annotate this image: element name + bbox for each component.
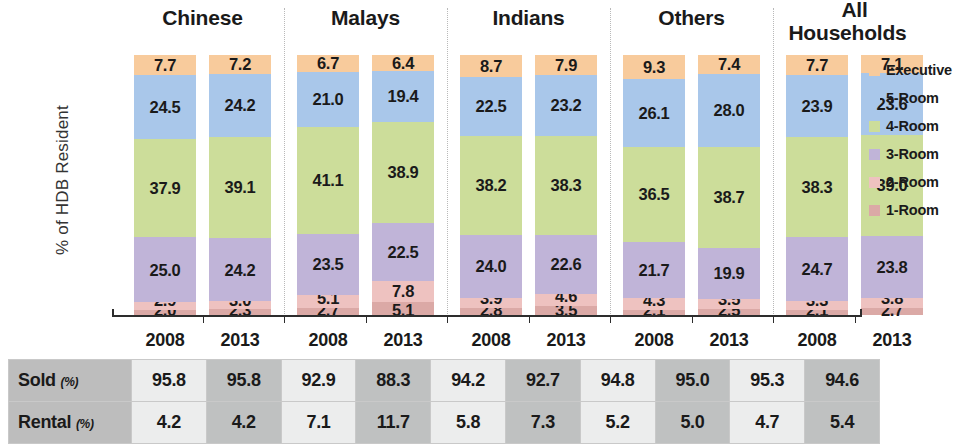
bar-all-households-2008: 2.13.324.738.323.97.7 (786, 55, 848, 315)
segment-value-label: 8.7 (480, 58, 502, 75)
segment-value-label: 38.3 (802, 179, 833, 196)
segment-value-label: 24.2 (225, 262, 256, 279)
bar-segment-room2: 2.9 (134, 302, 196, 310)
bar-segment-executive: 6.7 (297, 55, 359, 72)
group-separator (284, 8, 285, 316)
bar-segment-room4: 41.1 (297, 127, 359, 234)
bar-segment-room4: 38.2 (460, 136, 522, 235)
bar-segment-executive: 7.2 (209, 55, 271, 74)
segment-value-label: 22.6 (551, 256, 582, 273)
segment-value-label: 23.8 (877, 259, 908, 276)
bar-segment-room2: 3.0 (209, 301, 271, 309)
bar-segment-room3: 24.7 (786, 237, 848, 301)
segment-value-label: 24.0 (476, 258, 507, 275)
table-cell: 95.8 (132, 360, 207, 402)
legend-item-5-room[interactable]: 5-Room (869, 84, 968, 112)
axis-tick (855, 316, 856, 323)
x-tick-label-3: 2013 (372, 330, 434, 351)
bar-segment-room3: 24.0 (460, 235, 522, 297)
bar-segment-room1: 2.7 (297, 308, 359, 315)
x-axis-line (112, 315, 862, 317)
bar-segment-room5: 23.9 (786, 75, 848, 137)
group-separator (447, 8, 448, 316)
x-tick-label-4: 2008 (460, 330, 522, 351)
bar-segment-room1: 2.7 (861, 308, 923, 315)
table-cell: 4.2 (132, 402, 207, 444)
table-row-header: Rental (%) (9, 402, 132, 444)
legend-item-4-room[interactable]: 4-Room (869, 112, 968, 140)
table-cell: 5.0 (655, 402, 730, 444)
legend-item-executive[interactable]: Executive (869, 56, 968, 84)
segment-value-label: 6.4 (392, 55, 414, 72)
bar-segment-room2: 5.1 (297, 295, 359, 308)
bar-segment-room5: 28.0 (698, 74, 760, 147)
legend-label: 1-Room (886, 202, 939, 218)
table-row-header: Sold (%) (9, 360, 132, 402)
table-cell: 92.9 (281, 360, 356, 402)
table-row-label: Sold (18, 370, 61, 390)
table-row: Sold (%)95.895.892.988.394.292.794.895.0… (9, 360, 880, 402)
bar-segment-executive: 7.7 (134, 55, 196, 75)
bar-segment-room2: 3.8 (861, 298, 923, 308)
segment-value-label: 6.7 (317, 55, 339, 72)
segment-value-label: 19.9 (714, 265, 745, 282)
legend-swatch-icon (869, 121, 880, 132)
bar-segment-room2: 3.9 (460, 298, 522, 308)
group-title: Others (623, 6, 760, 29)
legend-item-1-room[interactable]: 1-Room (869, 196, 968, 224)
table-cell: 7.3 (505, 402, 580, 444)
group-separator (610, 8, 611, 316)
segment-value-label: 23.9 (802, 98, 833, 115)
y-axis-title: % of HDB Resident (53, 65, 73, 295)
x-tick-label-5: 2013 (535, 330, 597, 351)
table-cell: 95.3 (730, 360, 805, 402)
plot-area: ChineseMalaysIndiansOthersAllHouseholds … (112, 0, 862, 322)
bar-segment-room2: 3.3 (786, 301, 848, 310)
group-title: Indians (460, 6, 597, 29)
segment-value-label: 39.1 (225, 179, 256, 196)
table-row-label: Rental (18, 412, 76, 432)
segment-value-label: 22.5 (476, 98, 507, 115)
segment-value-label: 21.7 (639, 262, 670, 279)
legend-swatch-icon (869, 93, 880, 104)
x-tick-label-7: 2013 (698, 330, 760, 351)
bar-segment-room1: 2.8 (460, 308, 522, 315)
group-title: Malays (297, 6, 434, 29)
axis-tick (610, 316, 611, 323)
bar-malays-2008: 2.75.123.541.121.06.7 (297, 55, 359, 315)
segment-value-label: 7.7 (806, 57, 828, 74)
table-cell: 95.8 (206, 360, 281, 402)
segment-value-label: 26.1 (639, 105, 670, 122)
table-cell: 5.4 (805, 402, 880, 444)
bar-segment-executive: 7.7 (786, 55, 848, 75)
segment-value-label: 7.9 (555, 57, 577, 74)
axis-tick (773, 316, 774, 323)
bar-segment-room3: 23.5 (297, 234, 359, 295)
table-cell: 92.7 (505, 360, 580, 402)
segment-value-label: 7.7 (154, 57, 176, 74)
axis-tick (203, 316, 204, 323)
x-tick-label-1: 2013 (209, 330, 271, 351)
legend-swatch-icon (869, 65, 880, 76)
table-cell: 94.2 (431, 360, 506, 402)
bar-segment-executive: 6.4 (372, 55, 434, 72)
axis-tick (692, 316, 693, 323)
legend-item-2-room[interactable]: 2-Room (869, 168, 968, 196)
bar-segment-room5: 23.2 (535, 75, 597, 135)
bar-segment-executive: 9.3 (623, 55, 685, 79)
legend-swatch-icon (869, 205, 880, 216)
bar-segment-room5: 24.2 (209, 74, 271, 137)
bar-segment-room4: 38.9 (372, 122, 434, 223)
segment-value-label: 38.2 (476, 177, 507, 194)
segment-value-label: 7.4 (718, 56, 740, 73)
group-separator (773, 8, 774, 316)
legend-label: 4-Room (886, 118, 939, 134)
segment-value-label: 23.2 (551, 97, 582, 114)
legend-label: Executive (886, 62, 952, 78)
legend-swatch-icon (869, 149, 880, 160)
bar-segment-room5: 22.5 (460, 77, 522, 136)
table-cell: 5.8 (431, 402, 506, 444)
legend-item-3-room[interactable]: 3-Room (869, 140, 968, 168)
table-cell: 5.2 (580, 402, 655, 444)
